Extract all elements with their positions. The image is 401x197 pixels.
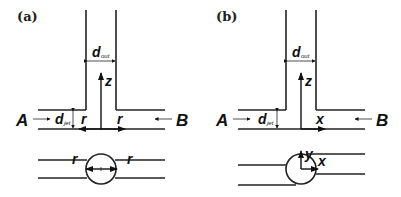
inlet-b-label: B [176,111,188,130]
panel-b-label: (b) [216,9,237,24]
dout-symbol: d [292,44,301,60]
djet-subscript: jet [63,120,71,126]
djet-subscript: jet [266,120,274,126]
inlet-a-label: A [15,111,28,130]
djet-symbol: d [55,111,64,127]
cs-x-label: x [317,153,327,169]
dout-subscript: out [301,53,310,59]
z-axis-label: z [304,73,312,89]
cross-section-a: r r [38,151,165,184]
x-axis-label: x [315,111,325,127]
t-junction-diagram: (a) d out z r r d jet A B [0,0,401,197]
dout-symbol: d [92,44,101,60]
panel-b: (b) d out z x d jet A B y x [215,9,388,185]
cross-section-b: y x [238,146,365,185]
z-axis-label: z [104,73,112,89]
cs-r-right-label: r [127,151,134,167]
r-right-label: r [117,111,124,127]
r-left-label: r [81,111,88,127]
cs-r-left-label: r [72,151,79,167]
panel-a: (a) d out z r r d jet A B [15,9,188,184]
inlet-b-label: B [376,111,388,130]
dout-subscript: out [101,53,110,59]
cs-y-label: y [304,146,314,162]
djet-symbol: d [258,111,267,127]
inlet-a-label: A [215,111,228,130]
panel-a-label: (a) [17,9,38,24]
